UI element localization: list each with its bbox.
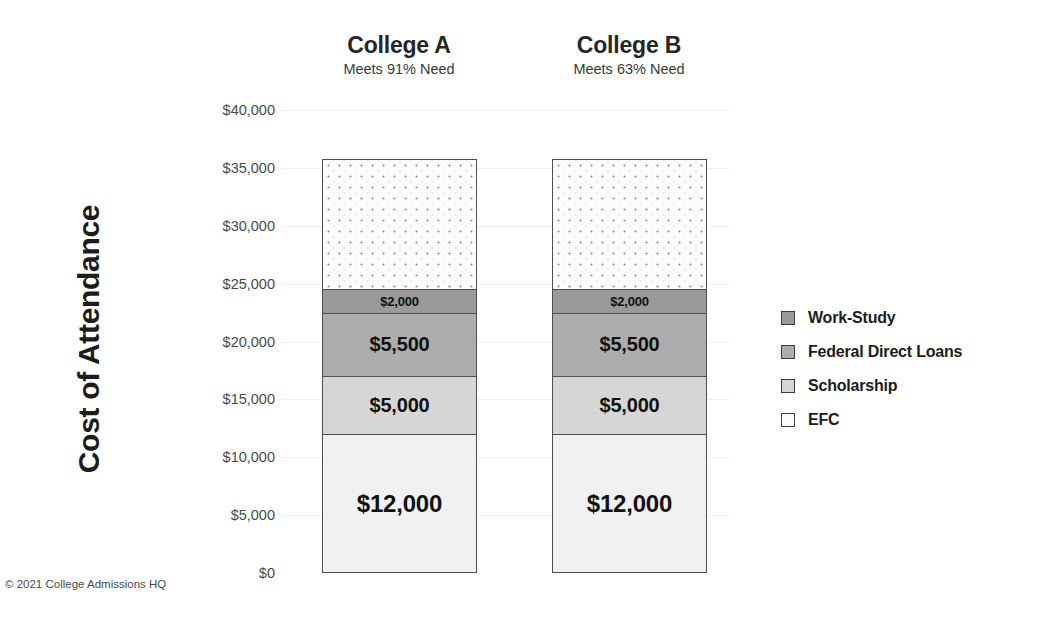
legend-swatch-work-study-icon: [781, 311, 795, 325]
bar-segment-scholarship-b[interactable]: $5,000: [552, 376, 707, 434]
bar-segment-label-scholarship-a: $5,000: [370, 394, 430, 417]
bar-segment-federal-direct-loans-a[interactable]: $5,500: [322, 313, 477, 377]
y-axis-title: Cost of Attendance: [72, 204, 106, 474]
bar-segment-unmet-need-b[interactable]: [552, 159, 707, 290]
bar-segment-label-work-study-a: $2,000: [380, 294, 419, 309]
gridline-40000: [282, 110, 730, 111]
bar-segment-efc-b[interactable]: $12,000: [552, 434, 707, 573]
stacked-bar-college-a[interactable]: $2,000 $5,500 $5,000 $12,000: [322, 159, 477, 573]
legend-item-scholarship[interactable]: Scholarship: [781, 369, 962, 403]
y-tick-40000: $40,000: [185, 102, 275, 118]
y-tick-30000: $30,000: [185, 218, 275, 234]
y-tick-35000: $35,000: [185, 160, 275, 176]
legend-label-federal-direct-loans: Federal Direct Loans: [808, 343, 962, 361]
column-subtitle-college-a: Meets 91% Need: [289, 62, 509, 77]
legend-swatch-federal-direct-loans-icon: [781, 345, 795, 359]
chart-plot-area: $2,000 $5,500 $5,000 $12,000 $2,000 $5,5…: [282, 110, 730, 573]
bar-segment-label-scholarship-b: $5,000: [600, 394, 660, 417]
legend-label-efc: EFC: [808, 411, 839, 429]
legend-label-scholarship: Scholarship: [808, 377, 897, 395]
bar-segment-work-study-a[interactable]: $2,000: [322, 289, 477, 312]
bar-segment-efc-a[interactable]: $12,000: [322, 434, 477, 573]
bar-segment-label-efc-a: $12,000: [357, 490, 442, 518]
bar-segment-unmet-need-a[interactable]: [322, 159, 477, 290]
y-tick-25000: $25,000: [185, 276, 275, 292]
column-title-college-a: College A: [289, 33, 509, 57]
y-tick-20000: $20,000: [185, 334, 275, 350]
y-tick-5000: $5,000: [185, 507, 275, 523]
bar-segment-work-study-b[interactable]: $2,000: [552, 289, 707, 312]
legend-item-work-study[interactable]: Work-Study: [781, 301, 962, 335]
y-axis-tick-labels: $40,000 $35,000 $30,000 $25,000 $20,000 …: [185, 110, 275, 573]
y-tick-0: $0: [185, 565, 275, 581]
bar-segment-scholarship-a[interactable]: $5,000: [322, 376, 477, 434]
stacked-bar-college-b[interactable]: $2,000 $5,500 $5,000 $12,000: [552, 159, 707, 573]
legend-swatch-scholarship-icon: [781, 379, 795, 393]
legend-swatch-efc-icon: [781, 413, 795, 427]
footer-copyright: © 2021 College Admissions HQ: [5, 578, 166, 590]
column-subtitle-college-b: Meets 63% Need: [519, 62, 739, 77]
column-title-college-b: College B: [519, 33, 739, 57]
legend-item-efc[interactable]: EFC: [781, 403, 962, 437]
bar-segment-label-work-study-b: $2,000: [610, 294, 649, 309]
y-tick-15000: $15,000: [185, 391, 275, 407]
column-header-college-b: College B Meets 63% Need: [519, 33, 739, 77]
column-header-college-a: College A Meets 91% Need: [289, 33, 509, 77]
y-tick-10000: $10,000: [185, 449, 275, 465]
bar-segment-federal-direct-loans-b[interactable]: $5,500: [552, 313, 707, 377]
bar-segment-label-efc-b: $12,000: [587, 490, 672, 518]
chart-legend: Work-Study Federal Direct Loans Scholars…: [781, 301, 962, 437]
legend-item-federal-direct-loans[interactable]: Federal Direct Loans: [781, 335, 962, 369]
bar-segment-label-federal-direct-loans-b: $5,500: [600, 333, 660, 356]
legend-label-work-study: Work-Study: [808, 309, 896, 327]
bar-segment-label-federal-direct-loans-a: $5,500: [370, 333, 430, 356]
